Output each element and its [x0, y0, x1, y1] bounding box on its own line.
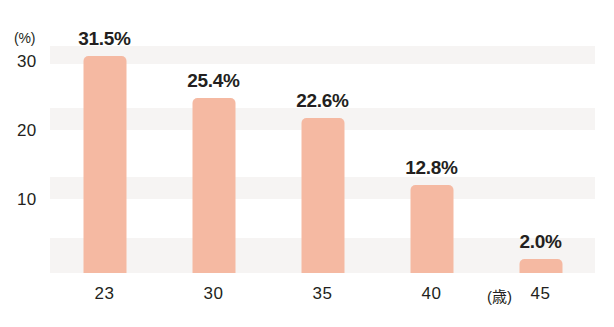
- bar-35[interactable]: [301, 118, 344, 273]
- bar-value-label: 22.6%: [296, 90, 348, 112]
- bar-value-label: 2.0%: [519, 231, 561, 253]
- x-axis-tick-23: 23: [50, 284, 159, 304]
- bar-30[interactable]: [192, 98, 235, 273]
- bar-chart: (%) 30 20 10 31.5% 25.4% 22.6% 12.8% 2.0…: [0, 0, 614, 327]
- bar-group: 31.5%: [50, 46, 159, 273]
- bar-value-label: 25.4%: [187, 70, 239, 92]
- bar-series: 31.5% 25.4% 22.6% 12.8% 2.0%: [50, 46, 595, 273]
- bar-45[interactable]: [519, 259, 562, 273]
- bar-group: 22.6%: [268, 46, 377, 273]
- bar-group: 2.0%: [486, 46, 595, 273]
- x-axis: 23 30 35 40 45: [50, 284, 595, 314]
- bar-value-label: 31.5%: [78, 28, 130, 50]
- y-axis: (%) 30 20 10: [0, 0, 50, 327]
- x-axis-tick-35: 35: [268, 284, 377, 304]
- x-axis-tick-30: 30: [159, 284, 268, 304]
- bar-23[interactable]: [83, 56, 126, 273]
- bar-value-label: 12.8%: [405, 157, 457, 179]
- x-axis-unit-label: (歳): [487, 285, 512, 306]
- bar-group: 12.8%: [377, 46, 486, 273]
- bar-group: 25.4%: [159, 46, 268, 273]
- y-axis-tick-30: 30: [17, 52, 36, 72]
- y-axis-tick-10: 10: [17, 190, 36, 210]
- y-axis-tick-20: 20: [17, 121, 36, 141]
- y-axis-unit-label: (%): [14, 30, 35, 46]
- bar-40[interactable]: [410, 185, 453, 273]
- x-axis-tick-40: 40: [377, 284, 486, 304]
